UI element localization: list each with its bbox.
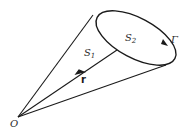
lower-generator-line	[18, 65, 166, 117]
label-s2: S2	[125, 32, 137, 45]
label-gamma: Γ	[170, 34, 179, 45]
gamma-direction-arrow-icon	[161, 39, 168, 46]
upper-generator-line	[18, 15, 93, 117]
cone-diagram: O S1 S2 Γ r	[0, 0, 187, 133]
label-vector-r: r	[81, 74, 86, 85]
label-origin: O	[10, 118, 18, 129]
vector-line	[18, 50, 117, 117]
label-s1: S1	[84, 47, 95, 60]
